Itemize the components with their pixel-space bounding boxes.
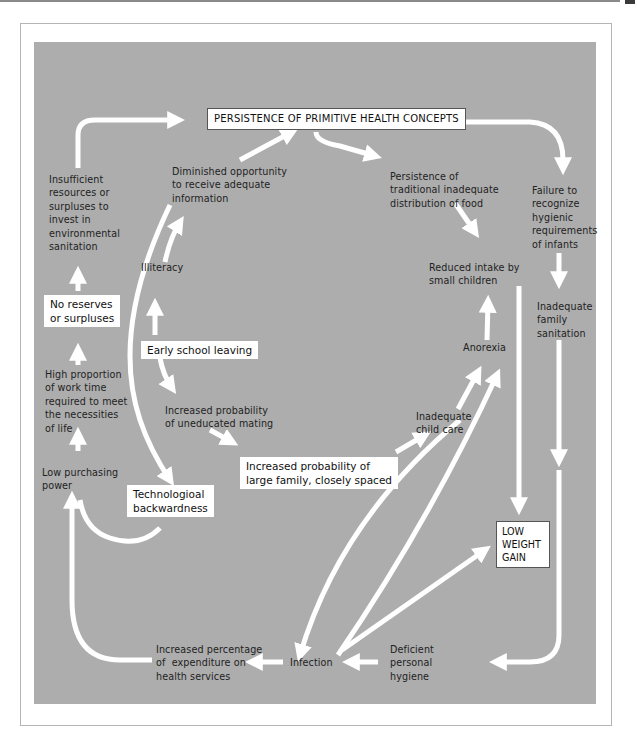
arrow-anorexia-to-intake <box>487 302 488 340</box>
reduced-intake-label: Reduced intake by small children <box>429 261 520 288</box>
arrow-mating-to-family <box>210 430 232 442</box>
arrow-childcare-to-infection <box>300 420 460 655</box>
infection-label: Infection <box>290 656 333 669</box>
diminished-opportunity-label: Diminished opportunity to receive adequa… <box>172 165 287 205</box>
uneducated-mating-label: Increased probability of uneducated mati… <box>165 404 273 431</box>
arrow-school-to-mating <box>160 358 172 388</box>
increased-expenditure-label: Increased percentage of expenditure on h… <box>156 643 262 683</box>
no-reserves-box: No reserves or surpluses <box>44 295 120 327</box>
illiteracy-label: Illiteracy <box>141 261 183 274</box>
low-weight-gain-box: LOW WEIGHT GAIN <box>496 521 550 568</box>
arrow-family-to-childcare <box>396 435 425 452</box>
arrow-expenditure-to-purchasing <box>72 498 152 660</box>
deficient-personal-hygiene-label: Deficient personal hygiene <box>390 643 434 683</box>
anorexia-label: Anorexia <box>463 341 506 354</box>
early-school-leaving-box: Early school leaving <box>141 341 258 359</box>
low-purchasing-power-label: Low purchasing power <box>42 466 118 493</box>
technological-backwardness-box: Technologioal backwardness <box>127 485 214 517</box>
high-proportion-worktime-label: High proportion of work time required to… <box>45 368 127 435</box>
inadequate-child-care-label: Inadequate child care <box>416 410 472 437</box>
arrow-childcare-to-anorexia <box>458 372 478 409</box>
arrow-information-to-concepts <box>240 132 292 160</box>
inadequate-family-sanitation-label: Inadequate family sanitation <box>537 300 593 340</box>
failure-recognize-hygiene-label: Failure to recognize hygienic requiremen… <box>532 184 597 251</box>
insufficient-resources-label: Insufficient resources or surpluses to i… <box>49 173 120 253</box>
arrow-infection-to-weight <box>342 550 485 650</box>
arrow-concepts-to-hygienic <box>455 122 563 168</box>
arrow-concepts-to-distribution <box>316 132 375 156</box>
traditional-distribution-label: Persistence of traditional inadequate di… <box>390 170 499 210</box>
large-family-box: Increased probability of large family, c… <box>240 457 398 489</box>
persistence-primitive-health-concepts-box: PERSISTENCE OF PRIMITIVE HEALTH CONCEPTS <box>207 108 466 130</box>
arrow-illiteracy-to-information <box>165 222 180 262</box>
arrow-resources-to-concepts <box>78 120 178 168</box>
